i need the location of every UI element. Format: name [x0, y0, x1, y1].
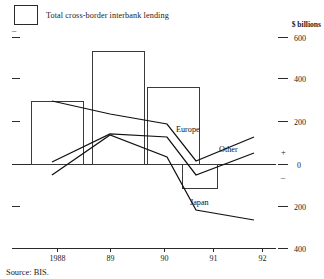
y-ticklabel-neg200: 200	[294, 203, 306, 212]
other-label: Other	[219, 145, 238, 154]
bar-1988	[32, 102, 84, 165]
japan-label: Japan	[190, 198, 209, 207]
x-ticklabel-1988: 1988	[50, 254, 66, 263]
europe-label: Europe	[176, 125, 200, 134]
y-ticklabel-neg400: 400	[294, 245, 306, 254]
source-note: Source: BIS.	[6, 268, 49, 277]
plus-sign: +	[281, 147, 286, 157]
x-ticklabel-90: 90	[161, 254, 169, 263]
chart-canvas: 600 400 200 0 200 400 + – – 1988 89 90 9…	[0, 0, 324, 279]
y-ticklabel-400: 400	[294, 75, 306, 84]
bar-91	[183, 165, 218, 189]
x-ticklabel-89: 89	[107, 254, 115, 263]
x-ticklabel-92: 92	[259, 254, 267, 263]
left-minus-top: –	[11, 25, 17, 35]
y-ticklabel-0: 0	[297, 161, 301, 170]
y-ticklabel-200: 200	[294, 118, 306, 127]
y-ticklabel-600: 600	[294, 34, 306, 43]
x-ticklabel-91: 91	[210, 254, 218, 263]
chart-figure: Total cross-border interbank lending $ b…	[0, 0, 324, 279]
minus-sign: –	[280, 172, 286, 182]
bar-89	[93, 52, 145, 165]
